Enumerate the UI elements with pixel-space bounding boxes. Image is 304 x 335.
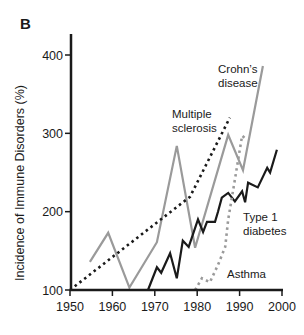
x-tick-label: 1990 (226, 300, 254, 314)
y-axis-label: Incidence of Immune Disorders (%) (13, 85, 27, 281)
series-layer (70, 66, 277, 290)
series-label: Asthma (227, 268, 267, 280)
x-tick-label: 1970 (141, 300, 169, 314)
y-tick-label: 300 (42, 127, 63, 141)
series-line-crohn-s-disease (90, 66, 263, 288)
chart-figure: B Crohn’sdiseaseMultiplesclerosisType 1d… (0, 0, 304, 335)
x-tick-label: 2000 (268, 300, 296, 314)
y-tick-label: 400 (42, 49, 63, 63)
x-tick-label: 1950 (56, 300, 84, 314)
panel-label: B (20, 15, 31, 32)
y-tick-label: 100 (42, 284, 63, 298)
x-tick-label: 1980 (183, 300, 211, 314)
x-tick-label: 1960 (98, 300, 126, 314)
series-label: Multiplesclerosis (172, 108, 217, 134)
series-label: Type 1diabetes (243, 211, 287, 237)
series-line-multiple-sclerosis (70, 118, 230, 290)
x-axis-ticks: 195019601970198019902000 (56, 290, 296, 314)
y-axis-ticks: 100200300400 (42, 49, 71, 298)
y-tick-label: 200 (42, 205, 63, 219)
line-chart: B Crohn’sdiseaseMultiplesclerosisType 1d… (0, 0, 304, 335)
series-label: Crohn’sdisease (218, 63, 258, 89)
